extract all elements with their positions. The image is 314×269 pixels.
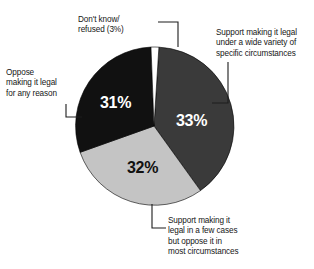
callout-dont-know-refused: Don't know/ refused (3%) xyxy=(78,15,156,36)
slice-value-label-oppose: 31% xyxy=(100,94,131,112)
slice-value-label-wide-variety: 33% xyxy=(176,112,207,130)
leader-line-few-cases xyxy=(152,204,166,228)
slice-value-label-few-cases: 32% xyxy=(127,159,158,177)
callout-oppose-any-reason: Oppose making it legal for any reason xyxy=(6,68,82,99)
pie-chart-figure: Don't know/ refused (3%) Support making … xyxy=(0,0,314,269)
leader-line-dont-know xyxy=(158,22,178,47)
callout-support-few-cases: Support making it legal in a few cases b… xyxy=(168,216,260,258)
callout-support-wide-variety: Support making it legal under a wide var… xyxy=(216,28,312,59)
